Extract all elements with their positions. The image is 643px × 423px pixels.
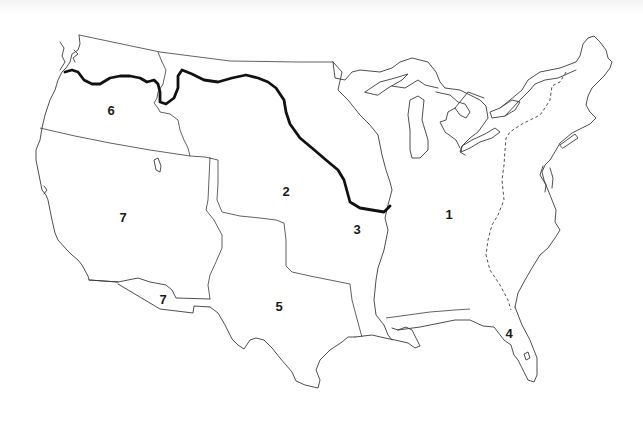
gulf-coast [355,307,537,382]
lake-ontario [490,100,520,118]
map: 1 2 3 4 5 6 7 7 [0,0,643,423]
region-label-1: 1 [445,208,452,221]
appalachian-line [486,72,566,310]
mississippi-river [333,62,392,340]
region-label-7a: 7 [119,211,126,224]
lake-okeechobee [524,352,530,360]
lake-superior-shore [365,74,438,95]
region-4-border [386,309,470,318]
region-label-5: 5 [275,300,282,313]
oregon-border [40,128,205,157]
northern-border [79,35,333,62]
atlantic-coast [500,36,612,307]
region-label-2: 2 [282,185,289,198]
divide-line [154,52,190,156]
region-label-4: 4 [505,327,512,340]
region-label-7b: 7 [159,293,166,306]
mexico-border-west [89,278,210,299]
region-label-3: 3 [353,223,360,236]
region-label-6: 6 [107,104,114,117]
puget-sound [60,42,78,70]
lake-michigan [408,96,428,158]
chesapeake-bay [540,166,553,192]
texas-border [210,307,355,388]
river-boundary [65,70,390,212]
texas-panhandle-west [206,157,222,299]
sf-bay [44,186,47,194]
us-outline-map [0,0,643,423]
great-salt-lake [154,158,161,172]
lake-erie [461,128,500,152]
